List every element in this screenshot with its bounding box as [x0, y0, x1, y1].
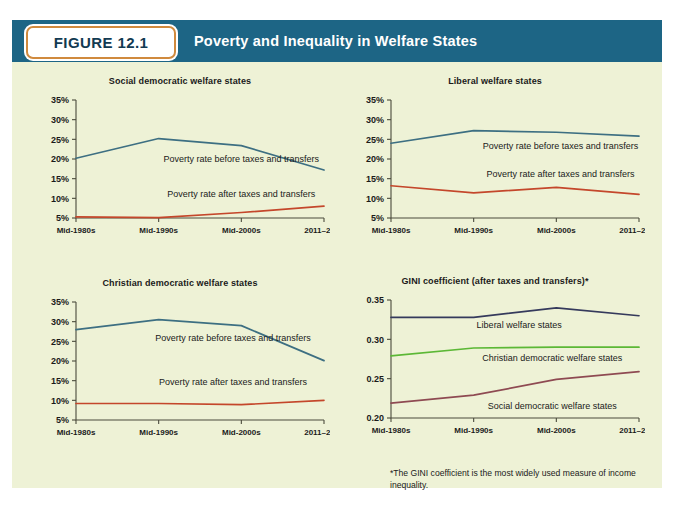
- y-axis-tick-label: 15%: [366, 174, 384, 184]
- x-axis-tick-label: Mid-1990s: [454, 426, 493, 435]
- x-axis-tick-label: Mid-2000s: [222, 226, 261, 235]
- y-axis-tick-label: 0.20: [366, 413, 384, 423]
- x-axis-tick-label: Mid-1990s: [454, 226, 493, 235]
- series-annotation-label: Christian democratic welfare states: [482, 353, 623, 363]
- y-axis-tick-label: 25%: [366, 135, 384, 145]
- series-annotation-label: Poverty rate after taxes and transfers: [159, 377, 308, 387]
- series-line: [76, 206, 324, 217]
- x-axis-tick-label: 2011–2013: [619, 226, 645, 235]
- y-axis-tick-label: 30%: [51, 115, 69, 125]
- y-axis-tick-label: 0.25: [366, 374, 384, 384]
- y-axis-tick-label: 0.30: [366, 335, 384, 345]
- x-axis-tick-label: Mid-1980s: [57, 226, 96, 235]
- x-axis-tick-label: 2011–2013: [304, 226, 330, 235]
- x-axis-tick-label: 2011–2013: [304, 428, 330, 437]
- y-axis-tick-label: 35%: [366, 95, 384, 105]
- chart-title: Social democratic welfare states: [30, 76, 330, 86]
- y-axis-tick-label: 15%: [51, 174, 69, 184]
- y-axis-tick-label: 35%: [51, 297, 69, 307]
- y-axis-tick-label: 30%: [51, 317, 69, 327]
- y-axis-tick-label: 15%: [51, 376, 69, 386]
- x-axis-tick-label: Mid-1990s: [139, 226, 178, 235]
- series-annotation-label: Poverty rate after taxes and transfers: [486, 169, 635, 179]
- figure-number-label: FIGURE 12.1: [54, 34, 148, 51]
- x-axis-tick-label: Mid-1990s: [139, 428, 178, 437]
- chart-plot-area: 5%10%15%20%25%30%35%Mid-1980sMid-1990sMi…: [30, 292, 330, 457]
- x-axis-tick-label: 2011–2013: [619, 426, 645, 435]
- x-axis-tick-label: Mid-1980s: [372, 426, 411, 435]
- chart-panel-christian-democratic: Christian democratic welfare states 5%10…: [30, 278, 330, 458]
- y-axis-tick-label: 10%: [51, 396, 69, 406]
- x-axis-tick-label: Mid-1980s: [372, 226, 411, 235]
- y-axis-tick-label: 5%: [56, 213, 69, 223]
- chart-plot-area: 5%10%15%20%25%30%35%Mid-1980sMid-1990sMi…: [30, 90, 330, 255]
- chart-plot-area: 0.200.250.300.35Mid-1980sMid-1990sMid-20…: [345, 290, 645, 455]
- y-axis-tick-label: 30%: [366, 115, 384, 125]
- series-annotation-label: Poverty rate before taxes and transfers: [155, 333, 311, 343]
- y-axis-tick-label: 5%: [56, 415, 69, 425]
- y-axis-tick-label: 25%: [51, 337, 69, 347]
- chart-panel-social-democratic: Social democratic welfare states 5%10%15…: [30, 76, 330, 256]
- chart-title: GINI coefficient (after taxes and transf…: [345, 276, 645, 286]
- figure-header-bar: FIGURE 12.1 Poverty and Inequality in We…: [12, 20, 662, 62]
- y-axis-tick-label: 20%: [51, 154, 69, 164]
- series-line: [76, 400, 324, 404]
- series-annotation-label: Poverty rate after taxes and transfers: [167, 189, 316, 199]
- figure-number-badge: FIGURE 12.1: [26, 26, 176, 59]
- chart-plot-area: 5%10%15%20%25%30%35%Mid-1980sMid-1990sMi…: [345, 90, 645, 255]
- series-line: [391, 308, 639, 317]
- x-axis-tick-label: Mid-1980s: [57, 428, 96, 437]
- series-line: [391, 372, 639, 403]
- x-axis-tick-label: Mid-2000s: [537, 226, 576, 235]
- y-axis-tick-label: 5%: [371, 213, 384, 223]
- series-annotation-label: Poverty rate before taxes and transfers: [164, 154, 320, 164]
- x-axis-tick-label: Mid-2000s: [537, 426, 576, 435]
- y-axis-tick-label: 0.35: [366, 295, 384, 305]
- y-axis-tick-label: 10%: [366, 194, 384, 204]
- figure-title: Poverty and Inequality in Welfare States: [194, 20, 477, 62]
- series-line: [391, 186, 639, 195]
- gini-footnote: *The GINI coefficient is the most widely…: [390, 468, 652, 491]
- y-axis-tick-label: 10%: [51, 194, 69, 204]
- chart-panel-liberal: Liberal welfare states 5%10%15%20%25%30%…: [345, 76, 645, 256]
- series-annotation-label: Liberal welfare states: [477, 320, 563, 330]
- y-axis-tick-label: 20%: [366, 154, 384, 164]
- y-axis-tick-label: 35%: [51, 95, 69, 105]
- chart-title: Christian democratic welfare states: [30, 278, 330, 288]
- series-annotation-label: Poverty rate before taxes and transfers: [483, 141, 639, 151]
- figure-container: FIGURE 12.1 Poverty and Inequality in We…: [12, 20, 662, 488]
- chart-panel-gini: GINI coefficient (after taxes and transf…: [345, 276, 645, 456]
- chart-title: Liberal welfare states: [345, 76, 645, 86]
- y-axis-tick-label: 25%: [51, 135, 69, 145]
- series-annotation-label: Social democratic welfare states: [488, 401, 618, 411]
- y-axis-tick-label: 20%: [51, 356, 69, 366]
- x-axis-tick-label: Mid-2000s: [222, 428, 261, 437]
